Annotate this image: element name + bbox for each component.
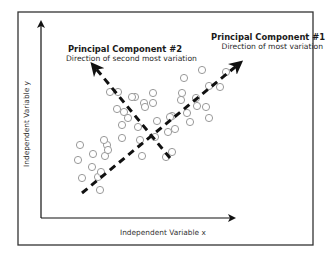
data-point xyxy=(113,105,120,112)
data-point xyxy=(177,96,184,103)
pca-diagram: Principal Component #2 Direction of seco… xyxy=(0,0,329,258)
data-point xyxy=(128,93,135,100)
data-point xyxy=(89,150,96,157)
data-point xyxy=(164,128,171,135)
data-point xyxy=(138,152,145,159)
pc2-subtitle: Direction of second most variation xyxy=(66,54,184,63)
data-point xyxy=(104,146,111,153)
data-point xyxy=(180,74,187,81)
pc1-subtitle: Direction of most variation xyxy=(211,42,323,51)
data-point xyxy=(149,89,156,96)
data-point xyxy=(74,156,81,163)
data-point xyxy=(100,136,107,143)
data-point xyxy=(149,99,156,106)
data-point xyxy=(183,109,190,116)
data-points xyxy=(74,66,229,193)
pc1-label: Principal Component #1 Direction of most… xyxy=(211,32,323,51)
data-point xyxy=(153,117,160,124)
y-axis-label: Independent Variable y xyxy=(22,81,31,167)
data-point xyxy=(186,118,193,125)
data-point xyxy=(193,102,200,109)
data-point xyxy=(118,134,125,141)
data-point xyxy=(78,174,85,181)
data-point xyxy=(198,66,205,73)
data-point xyxy=(171,125,178,132)
data-point xyxy=(76,141,83,148)
data-point xyxy=(141,103,148,110)
data-point xyxy=(202,103,209,110)
data-point xyxy=(168,148,175,155)
data-point xyxy=(124,114,131,121)
pc2-label: Principal Component #2 Direction of seco… xyxy=(66,44,184,63)
data-point xyxy=(88,163,95,170)
data-point xyxy=(96,186,103,193)
x-axis-label: Independent Variable x xyxy=(120,228,206,237)
data-point xyxy=(118,121,125,128)
data-point xyxy=(178,89,185,96)
data-point xyxy=(134,123,141,130)
pc2-title: Principal Component #2 xyxy=(66,44,184,54)
data-point xyxy=(205,114,212,121)
pc1-title: Principal Component #1 xyxy=(211,32,323,42)
data-point xyxy=(216,83,223,90)
